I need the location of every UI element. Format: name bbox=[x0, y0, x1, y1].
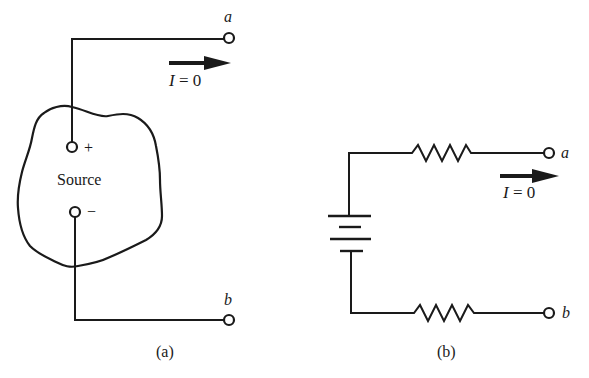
terminal-b-node-b bbox=[544, 308, 554, 318]
terminal-a-node bbox=[224, 33, 234, 43]
figure-b: a b I = 0 (b) bbox=[328, 144, 570, 361]
caption-b: (b) bbox=[437, 343, 456, 361]
current-arrow-icon-b bbox=[500, 169, 559, 183]
terminal-a-label: a bbox=[224, 8, 232, 25]
terminal-b-label-b: b bbox=[562, 304, 570, 321]
caption-a: (a) bbox=[156, 343, 174, 361]
plus-terminal bbox=[67, 142, 77, 152]
current-label: I = 0 bbox=[168, 71, 201, 90]
circuit-figure: + − Source a b I = 0 (a) a b bbox=[0, 0, 589, 378]
terminal-b-node bbox=[224, 315, 234, 325]
current-label-b: I = 0 bbox=[502, 183, 535, 202]
terminal-b-label: b bbox=[224, 291, 232, 308]
wire-top-b bbox=[349, 145, 544, 216]
terminal-a-node-b bbox=[544, 148, 554, 158]
wire-bottom-a bbox=[75, 214, 228, 320]
terminal-a-label-b: a bbox=[561, 144, 569, 161]
battery-icon bbox=[328, 216, 371, 251]
current-arrow-icon bbox=[169, 56, 231, 70]
figure-a: + − Source a b I = 0 (a) bbox=[18, 8, 234, 361]
source-label: Source bbox=[57, 171, 101, 188]
minus-terminal bbox=[70, 207, 80, 217]
plus-sign: + bbox=[84, 139, 93, 156]
minus-sign: − bbox=[87, 203, 96, 220]
wire-bottom-b bbox=[351, 251, 544, 321]
